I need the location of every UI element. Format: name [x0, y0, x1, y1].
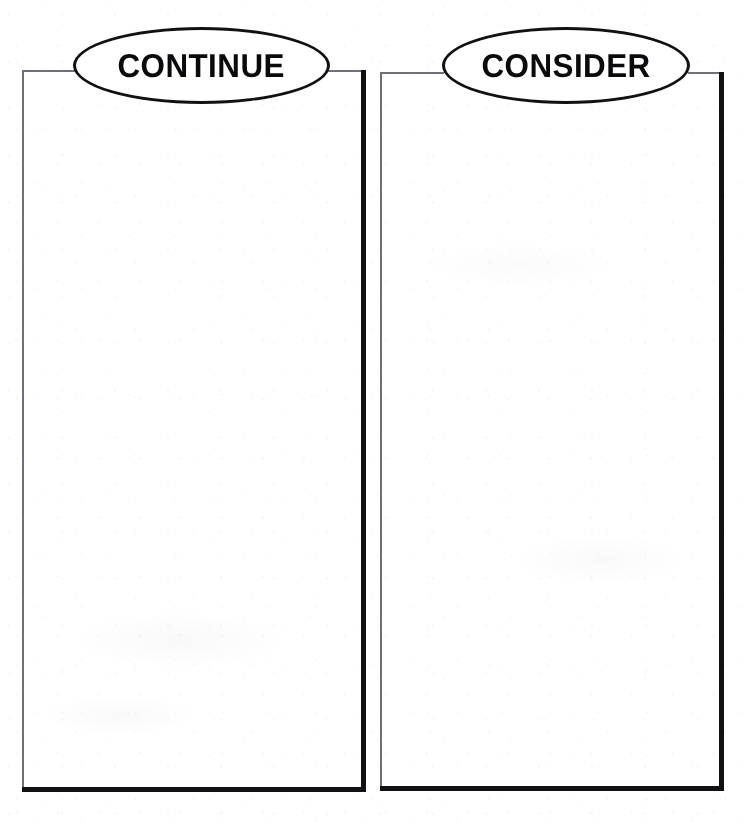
consider-frame-right-rule	[719, 72, 724, 791]
continue-heading-label: CONTINUE	[118, 49, 286, 82]
consider-frame-bottom-rule	[380, 786, 724, 791]
continue-frame-right-rule	[361, 70, 366, 792]
worksheet-page: CONTINUE CONSIDER	[0, 0, 749, 823]
consider-panel-frame	[380, 72, 724, 791]
continue-write-area[interactable]	[24, 72, 361, 787]
continue-panel-frame	[22, 70, 366, 792]
consider-heading-label: CONSIDER	[481, 49, 650, 82]
continue-heading-bubble: CONTINUE	[73, 27, 330, 104]
consider-heading-bubble: CONSIDER	[442, 27, 690, 104]
continue-frame-bottom-rule	[22, 787, 366, 792]
consider-write-area[interactable]	[382, 74, 719, 786]
